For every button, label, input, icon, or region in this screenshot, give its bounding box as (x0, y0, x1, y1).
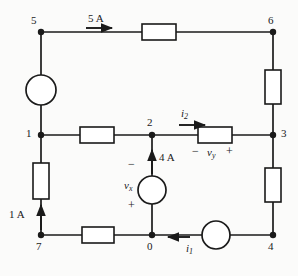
circuit-diagram-canvas: 5 6 1 2 3 7 0 4 5 A 4 A 1 A i2 i1 − vx +… (0, 0, 298, 276)
left-current-source (26, 75, 56, 105)
vx-current-source (138, 176, 166, 204)
vy-subscript: y (212, 151, 216, 160)
i2-subscript: 2 (184, 112, 188, 121)
right-lower-resistor (265, 168, 281, 202)
vy-minus-sign: − (192, 145, 199, 157)
node-dot-4 (270, 232, 276, 238)
current-label-1a: 1 A (9, 209, 25, 220)
top-resistor (142, 24, 176, 40)
node-label-3: 3 (281, 128, 287, 139)
node-dot-5 (38, 29, 44, 35)
right-upper-resistor (265, 70, 281, 104)
bottom-resistor (82, 227, 114, 243)
voltage-label-vx: vx (124, 180, 132, 193)
circuit-schematic (0, 0, 298, 276)
bottom-right-current-source (202, 221, 230, 249)
node-label-5: 5 (31, 15, 37, 26)
node-dot-1 (38, 132, 44, 138)
middle-left-resistor (80, 127, 114, 143)
current-label-i2: i2 (181, 108, 188, 121)
vx-plus-sign: + (128, 199, 135, 211)
vx-minus-sign: − (128, 158, 135, 170)
node-label-6: 6 (268, 15, 274, 26)
node-dot-2 (149, 132, 155, 138)
node-dot-3 (270, 132, 276, 138)
node-dot-0 (149, 232, 155, 238)
current-label-5a: 5 A (88, 13, 104, 24)
node-label-1: 1 (26, 128, 32, 139)
left-lower-resistor (33, 163, 49, 199)
node-dot-6 (270, 29, 276, 35)
vy-resistor (198, 127, 232, 143)
vy-plus-sign: + (226, 145, 233, 157)
current-label-4a: 4 A (159, 152, 175, 163)
node-label-0: 0 (147, 241, 153, 252)
current-label-i1: i1 (186, 243, 193, 256)
voltage-label-vy: vy (207, 147, 215, 160)
node-label-4: 4 (268, 241, 274, 252)
i1-subscript: 1 (189, 247, 193, 256)
node-label-2: 2 (147, 117, 153, 128)
node-label-7: 7 (36, 241, 42, 252)
vx-subscript: x (129, 184, 133, 193)
node-dot-7 (38, 232, 44, 238)
